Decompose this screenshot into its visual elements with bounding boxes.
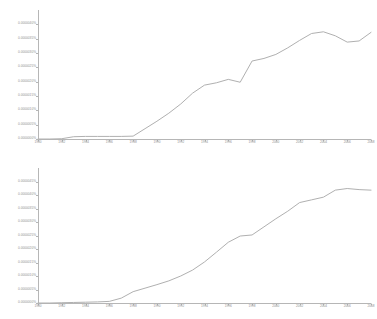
x-tick-label: 1990 [153, 141, 160, 144]
x-tick-label: 2004 [320, 141, 327, 144]
plot-svg [0, 160, 377, 319]
plot-svg [0, 0, 377, 155]
x-tick-label: 2004 [320, 305, 327, 308]
plot-area-bottom [0, 160, 377, 319]
plot-background [38, 10, 371, 139]
x-tick-label: 1986 [106, 141, 113, 144]
x-tick-label: 1994 [201, 305, 208, 308]
x-tick-label: 1998 [249, 305, 256, 308]
x-axis-labels-bottom: 1980198219841986198819901992199419961998… [0, 305, 377, 315]
x-tick-label: 2002 [296, 141, 303, 144]
x-tick-label: 1988 [130, 305, 137, 308]
x-tick-label: 1982 [58, 141, 65, 144]
x-tick-label: 1988 [130, 141, 137, 144]
x-tick-label: 1980 [34, 305, 41, 308]
x-tick-label: 1980 [34, 141, 41, 144]
x-tick-label: 2008 [367, 141, 374, 144]
x-tick-label: 2006 [344, 305, 351, 308]
x-tick-label: 1992 [177, 141, 184, 144]
chart-panel-bottom: 0.0000000%0.0000005%0.0000010%0.0000015%… [0, 160, 377, 319]
x-tick-label: 2000 [272, 305, 279, 308]
x-tick-label: 1984 [82, 305, 89, 308]
x-tick-label: 1996 [225, 305, 232, 308]
plot-background [38, 168, 371, 303]
x-tick-label: 1986 [106, 305, 113, 308]
x-tick-label: 1996 [225, 141, 232, 144]
x-axis-labels-top: 1980198219841986198819901992199419961998… [0, 141, 377, 151]
chart-panel-top: 0.0000000%0.0000005%0.0000010%0.0000015%… [0, 0, 377, 155]
x-tick-label: 1994 [201, 141, 208, 144]
plot-area-top [0, 0, 377, 155]
x-tick-label: 1998 [249, 141, 256, 144]
x-tick-label: 1982 [58, 305, 65, 308]
x-tick-label: 2002 [296, 305, 303, 308]
x-tick-label: 2000 [272, 141, 279, 144]
x-tick-label: 2008 [367, 305, 374, 308]
x-tick-label: 2006 [344, 141, 351, 144]
ngram-chart-page: 0.0000000%0.0000005%0.0000010%0.0000015%… [0, 0, 377, 319]
x-tick-label: 1990 [153, 305, 160, 308]
x-tick-label: 1984 [82, 141, 89, 144]
x-tick-label: 1992 [177, 305, 184, 308]
